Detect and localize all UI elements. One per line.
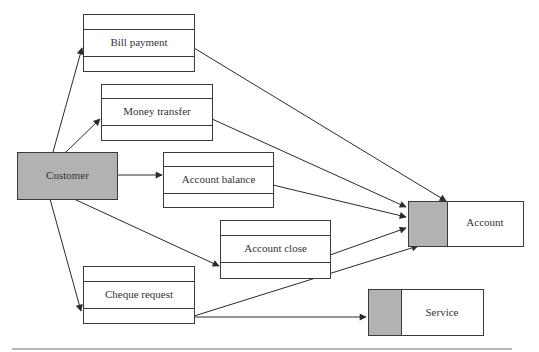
money-transfer-label: Money transfer [102, 105, 212, 117]
cheque-request-label: Cheque request [84, 288, 194, 300]
bill-payment-top-compartment [84, 15, 194, 30]
edge-customer-money [66, 119, 100, 152]
money-transfer-bottom-compartment [102, 125, 212, 140]
cheque-request-top-compartment [84, 267, 194, 282]
service-shaded-part [369, 290, 402, 335]
cheque-request-node[interactable]: Cheque request [83, 266, 195, 324]
bill-payment-bottom-compartment [84, 56, 194, 71]
service-label: Service [401, 306, 483, 318]
account-balance-bottom-compartment [164, 193, 273, 207]
money-transfer-top-compartment [102, 85, 212, 99]
service-entity-node[interactable]: Service [368, 289, 484, 336]
account-balance-label: Account balance [164, 173, 273, 185]
bill-payment-node[interactable]: Bill payment [83, 14, 195, 72]
account-label: Account [447, 216, 523, 228]
account-entity-node[interactable]: Account [408, 201, 524, 247]
customer-node[interactable]: Customer [17, 152, 118, 200]
diagram-canvas: Customer Bill payment Money transfer Acc… [0, 0, 539, 352]
account-close-node[interactable]: Account close [220, 220, 331, 279]
account-balance-top-compartment [164, 153, 273, 167]
customer-label: Customer [18, 169, 117, 181]
account-close-top-compartment [221, 221, 330, 236]
account-shaded-part [409, 202, 448, 246]
edge-balance-account [273, 185, 406, 217]
bill-payment-label: Bill payment [84, 36, 194, 48]
account-close-label: Account close [221, 242, 330, 254]
cheque-request-bottom-compartment [84, 308, 194, 323]
account-close-bottom-compartment [221, 262, 330, 278]
edge-close-account [330, 228, 406, 255]
edge-customer-bill [53, 48, 82, 152]
edge-customer-cheque [50, 199, 81, 311]
account-balance-node[interactable]: Account balance [163, 152, 274, 208]
money-transfer-node[interactable]: Money transfer [101, 84, 213, 141]
edge-customer-close [74, 199, 219, 266]
